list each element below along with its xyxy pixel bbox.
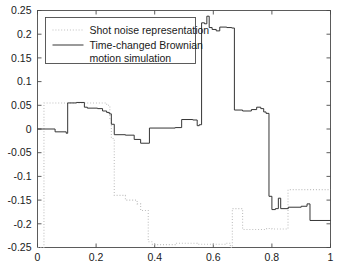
y-tick-label: -0.05	[8, 146, 32, 158]
y-tick-label: 0.05	[11, 99, 32, 111]
x-tick-label: 0.2	[89, 251, 104, 263]
y-tick-label: -0.25	[8, 241, 32, 253]
y-tick-label: 0.2	[17, 28, 32, 40]
x-tick-label: 0	[35, 251, 41, 263]
x-tick-label: 0.4	[147, 251, 162, 263]
figure-container: 00.20.40.60.81 -0.25-0.2-0.15-0.1-0.0500…	[0, 0, 346, 273]
y-tick-label: 0.15	[11, 52, 32, 64]
chart-canvas: 00.20.40.60.81 -0.25-0.2-0.15-0.1-0.0500…	[0, 0, 346, 273]
legend-label-brownian-line2: motion simulation	[90, 52, 172, 64]
legend-label-brownian-line1: Time-changed Brownian	[90, 39, 204, 51]
y-tick-label: 0.1	[17, 75, 32, 87]
y-tick-label: 0	[26, 123, 32, 135]
y-tick-label: -0.2	[13, 218, 31, 230]
x-tick-label: 0.8	[265, 251, 280, 263]
y-axis-tick-labels: -0.25-0.2-0.15-0.1-0.0500.050.10.150.20.…	[8, 4, 32, 253]
x-tick-label: 0.6	[206, 251, 221, 263]
series-line-0	[38, 103, 331, 248]
y-tick-label: -0.15	[8, 194, 32, 206]
legend-box: Shot noise representationTime-changed Br…	[46, 18, 210, 65]
x-axis-tick-labels: 00.20.40.60.81	[35, 251, 334, 263]
legend-label-shot-noise: Shot noise representation	[90, 24, 210, 36]
x-tick-label: 1	[328, 251, 334, 263]
y-tick-label: -0.1	[13, 170, 31, 182]
y-tick-label: 0.25	[11, 4, 32, 16]
